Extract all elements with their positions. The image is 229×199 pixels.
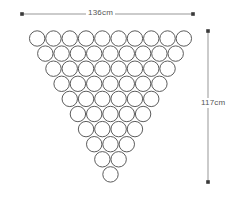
packed-circle <box>46 31 61 46</box>
packed-circle <box>127 31 142 46</box>
packed-circle <box>29 31 44 46</box>
packed-circle <box>144 61 159 76</box>
packed-circle <box>87 76 102 91</box>
packed-circle <box>152 46 167 61</box>
packed-circle <box>78 121 93 136</box>
packed-circle <box>144 91 159 106</box>
packed-circle <box>87 46 102 61</box>
packed-circle <box>95 121 110 136</box>
packed-circle <box>62 31 77 46</box>
packed-circle <box>103 167 118 182</box>
packed-circle <box>103 106 118 121</box>
packed-circle <box>87 106 102 121</box>
packed-circle <box>95 91 110 106</box>
packed-circle <box>152 76 167 91</box>
packed-circle <box>70 106 85 121</box>
dimension-layer <box>20 12 210 184</box>
packed-circle <box>111 121 126 136</box>
packed-circle <box>160 61 175 76</box>
width-dimension-start-marker <box>20 12 24 16</box>
packed-circle <box>62 91 77 106</box>
packed-circle <box>168 46 183 61</box>
width-dimension-label: 136cm <box>86 8 115 18</box>
circle-packing-diagram: 136cm 117cm <box>0 0 229 199</box>
packed-circle <box>127 61 142 76</box>
packed-circle <box>111 91 126 106</box>
packed-circle <box>119 137 134 152</box>
packed-circle <box>127 91 142 106</box>
packed-circle <box>160 31 175 46</box>
packed-circle <box>127 121 142 136</box>
packed-circle <box>111 31 126 46</box>
packed-circle <box>78 91 93 106</box>
packed-circle <box>78 61 93 76</box>
packed-circle <box>111 61 126 76</box>
packed-circle <box>119 46 134 61</box>
packed-circle <box>119 106 134 121</box>
height-dimension-start-marker <box>206 29 210 33</box>
packed-circle <box>95 61 110 76</box>
width-dimension-end-marker <box>191 12 195 16</box>
packed-circle <box>103 76 118 91</box>
packed-circle <box>135 46 150 61</box>
packed-circle <box>46 61 61 76</box>
height-dimension-label: 117cm <box>199 98 227 108</box>
packed-circle <box>54 46 69 61</box>
packed-circle <box>176 31 191 46</box>
packed-circle <box>87 137 102 152</box>
packed-circle <box>54 76 69 91</box>
packed-circle <box>103 137 118 152</box>
packed-circle <box>119 76 134 91</box>
packed-circle <box>111 152 126 167</box>
diagram-canvas <box>0 0 229 199</box>
packed-circle <box>70 46 85 61</box>
packed-circle <box>103 46 118 61</box>
packed-circle <box>95 31 110 46</box>
packed-circle <box>70 76 85 91</box>
packed-circle <box>135 76 150 91</box>
circle-group <box>29 31 191 182</box>
packed-circle <box>78 31 93 46</box>
packed-circle <box>95 152 110 167</box>
height-dimension-end-marker <box>206 180 210 184</box>
packed-circle <box>144 31 159 46</box>
packed-circle <box>38 46 53 61</box>
packed-circle <box>135 106 150 121</box>
packed-circle <box>62 61 77 76</box>
